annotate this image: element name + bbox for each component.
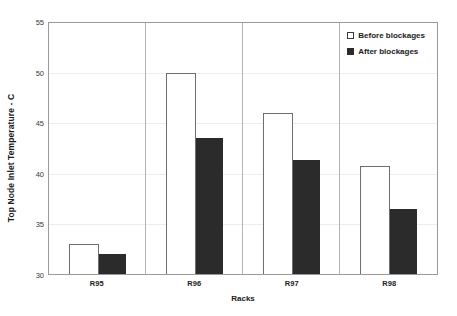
y-axis-tick-labels: 303540455055	[22, 0, 44, 316]
bar-r95-after[interactable]	[99, 254, 126, 274]
x-tick-label-r95: R95	[48, 279, 146, 288]
x-tick-label-r96: R96	[146, 279, 244, 288]
y-tick-label: 35	[36, 220, 44, 229]
bar-r97-before[interactable]	[263, 113, 292, 274]
legend-label-before: Before blockages	[358, 31, 425, 40]
bar-chart: Top Node Inlet Temperature - C 303540455…	[0, 0, 457, 316]
x-tick-label-r97: R97	[243, 279, 341, 288]
y-tick-label: 50	[36, 68, 44, 77]
legend-swatch-filled-square-icon	[347, 48, 354, 55]
bar-groups	[49, 23, 437, 274]
bar-r98-after[interactable]	[390, 209, 417, 274]
bar-group-r96	[146, 23, 243, 274]
bar-group-r98	[340, 23, 437, 274]
x-tick-label-r98: R98	[341, 279, 439, 288]
bar-pair	[166, 23, 222, 274]
bar-r97-after[interactable]	[293, 160, 320, 274]
legend-label-after: After blockages	[358, 47, 418, 56]
y-tick-label: 55	[36, 18, 44, 27]
plot-area: Before blockages After blockages	[48, 22, 438, 275]
bar-group-r97	[243, 23, 340, 274]
bar-r96-after[interactable]	[196, 138, 223, 274]
bar-r96-before[interactable]	[166, 73, 195, 274]
bar-r98-before[interactable]	[360, 166, 389, 274]
y-axis-title: Top Node Inlet Temperature - C	[0, 0, 22, 316]
x-axis-title: Racks	[48, 294, 438, 303]
legend-swatch-hollow-square-icon	[347, 32, 354, 39]
y-tick-label: 45	[36, 119, 44, 128]
legend-item-after: After blockages	[347, 47, 425, 56]
bar-group-r95	[49, 23, 146, 274]
bar-pair	[69, 23, 125, 274]
legend-item-before: Before blockages	[347, 31, 425, 40]
x-axis-tick-labels: R95R96R97R98	[48, 279, 438, 288]
bar-pair	[360, 23, 416, 274]
y-tick-label: 30	[36, 271, 44, 280]
bar-r95-before[interactable]	[69, 244, 98, 274]
legend: Before blockages After blockages	[347, 31, 425, 56]
y-tick-label: 40	[36, 169, 44, 178]
bar-pair	[263, 23, 319, 274]
